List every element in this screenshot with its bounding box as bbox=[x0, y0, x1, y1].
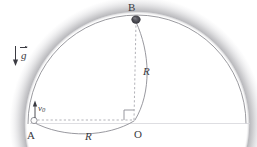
gravity-vector-overbar: g bbox=[21, 50, 27, 61]
label-radius-horizontal: R bbox=[85, 131, 92, 142]
label-point-b: B bbox=[128, 2, 135, 13]
bead-at-b bbox=[131, 15, 140, 23]
label-gravity-vector: g bbox=[21, 50, 27, 61]
label-radius-vertical: R bbox=[143, 66, 150, 77]
diagram-canvas bbox=[0, 0, 257, 147]
label-point-a: A bbox=[27, 130, 35, 141]
gravity-arrow bbox=[13, 46, 18, 66]
initial-velocity-subscript: 0 bbox=[42, 106, 45, 113]
label-point-o: O bbox=[134, 129, 142, 140]
marker-at-a bbox=[31, 117, 37, 123]
physics-diagram-figure: B A O R R g v0 bbox=[0, 0, 257, 147]
label-initial-velocity: v0 bbox=[38, 104, 45, 114]
